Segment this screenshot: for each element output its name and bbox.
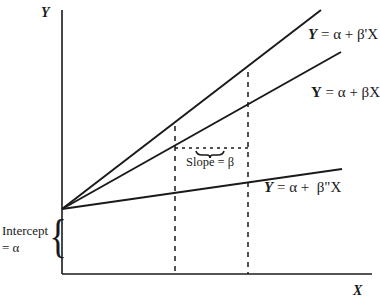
equation-shallow: Y = α + β"X: [264, 179, 341, 196]
intercept-label-line2: = α: [2, 239, 48, 256]
equation-base: Y = α + βX: [311, 84, 380, 101]
equation-steep: Y = α + β'X: [308, 26, 378, 43]
equation-base-rhs: = α + βX: [326, 84, 380, 100]
intercept-label: Intercept = α: [2, 222, 48, 256]
equation-steep-lhs: Y: [308, 26, 317, 42]
equation-shallow-rhs: = α + β"X: [277, 179, 341, 195]
equation-base-lhs: Y: [311, 84, 322, 100]
slope-label: Slope = β: [186, 155, 234, 170]
equation-steep-rhs: = α + β'X: [321, 26, 378, 42]
intercept-brace-icon: {: [49, 214, 67, 260]
x-axis-label: X: [353, 283, 362, 299]
y-axis-label: Y: [41, 5, 50, 21]
equation-shallow-lhs: Y: [264, 179, 273, 195]
intercept-label-line1: Intercept: [2, 222, 48, 239]
